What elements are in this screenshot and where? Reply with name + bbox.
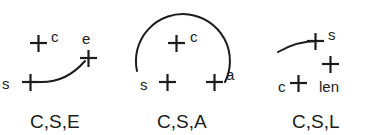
csa-angle-mark	[206, 74, 223, 91]
cse-end-label: e	[82, 30, 90, 47]
cse-start-label: s	[2, 75, 10, 92]
csa-caption: C,S,A	[157, 111, 207, 132]
csa-center-mark	[168, 35, 185, 52]
csa-circle-path	[136, 14, 230, 82]
csa-center-label: c	[190, 28, 198, 45]
cse-arc-path	[38, 61, 85, 82]
cse-center-label: c	[51, 28, 59, 45]
arc-construction-figure: c s e C,S,E c	[0, 0, 371, 135]
group-cse: c s e C,S,E	[2, 28, 97, 132]
csa-angle-label: a	[226, 66, 235, 83]
csl-start-label: s	[328, 26, 336, 43]
csl-center-label: c	[278, 78, 286, 95]
csl-arc-path	[278, 41, 317, 52]
csl-start-mark	[307, 33, 324, 50]
group-csl: s len c C,S,L	[278, 26, 340, 132]
group-csa: c s a C,S,A	[136, 14, 235, 132]
figure-canvas: c s e C,S,E c	[0, 0, 371, 135]
csa-start-mark	[159, 74, 176, 91]
csl-center-mark	[290, 75, 307, 92]
csl-caption: C,S,L	[292, 111, 340, 132]
csl-length-mark	[322, 56, 339, 73]
cse-start-mark	[22, 74, 39, 91]
csl-length-label: len	[319, 78, 339, 95]
csa-start-label: s	[140, 76, 148, 93]
cse-caption: C,S,E	[30, 111, 80, 132]
cse-center-mark	[30, 35, 47, 52]
